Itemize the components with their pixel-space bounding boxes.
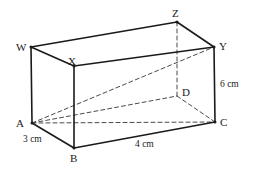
vertex-dot-y	[213, 46, 216, 49]
vertex-label-w: W	[16, 42, 26, 53]
dimension-label-length: 4 cm	[135, 140, 154, 150]
edge-W-Z	[31, 22, 177, 47]
vertex-dot-b	[73, 147, 76, 150]
edge-Y-C	[214, 47, 215, 122]
diagonal-A-Y	[32, 47, 214, 123]
dimension-label-depth: 3 cm	[23, 135, 42, 145]
edge-A-C	[32, 122, 215, 123]
dashed-edges-group	[32, 22, 215, 123]
vertex-label-b: B	[70, 153, 77, 164]
vertex-dot-c	[214, 121, 217, 124]
edge-A-D	[32, 96, 177, 123]
vertex-label-y: Y	[219, 41, 227, 52]
vertex-label-d: D	[182, 87, 190, 98]
vertex-dot-w	[30, 46, 33, 49]
cuboid-figure: WXZYABDC 3 cm4 cm6 cm	[0, 0, 259, 169]
vertex-label-a: A	[16, 118, 24, 129]
edge-W-A	[31, 47, 32, 123]
vertex-dot-a	[31, 122, 34, 125]
dimension-label-height: 6 cm	[220, 80, 239, 90]
edge-X-Y	[74, 47, 214, 66]
vertex-label-z: Z	[172, 8, 179, 19]
edge-Z-Y	[177, 22, 214, 47]
vertex-label-x: X	[68, 56, 76, 67]
vertex-label-c: C	[220, 117, 227, 128]
vertex-dot-z	[176, 21, 179, 24]
edge-D-C	[177, 96, 215, 122]
